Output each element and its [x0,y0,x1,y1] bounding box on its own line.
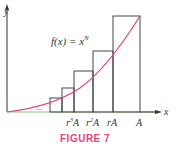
tick-label-A: A [135,117,143,128]
rect-3 [74,71,93,112]
figure-7-diagram: y x ... f(x) = xN r3A r2A rA A FIGURE 7 [0,0,179,153]
x-axis-label: x [163,106,169,117]
tick-label-r2A: r2A [86,117,100,128]
tick-label-r3A: r3A [66,117,80,128]
rect-4 [93,51,113,112]
figure-caption: FIGURE 7 [60,133,110,144]
tick-label-rA: rA [107,117,118,128]
ellipsis: ... [36,103,42,112]
y-axis-label: y [3,6,9,17]
rect-2 [62,88,74,112]
function-label: f(x) = xN [51,34,89,48]
x-axis-arrow-icon [155,110,162,114]
rect-5 [113,16,140,112]
